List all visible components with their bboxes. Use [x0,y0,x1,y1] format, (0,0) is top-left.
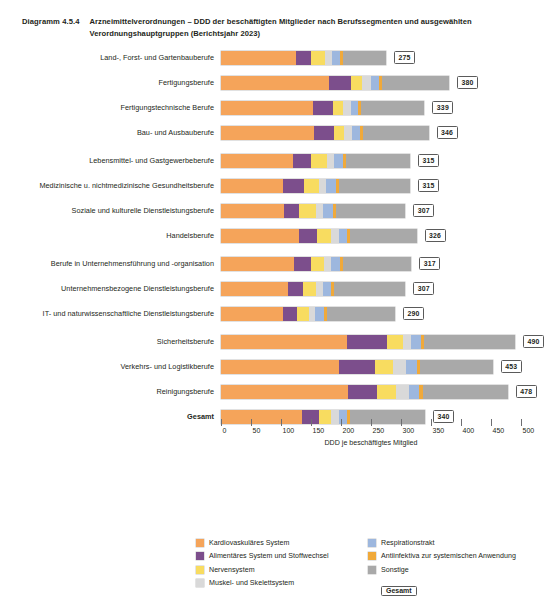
bar-segment[interactable] [303,282,316,296]
bar-segment[interactable] [327,307,395,321]
bar-segment[interactable] [371,76,379,90]
stacked-bar[interactable] [221,385,508,399]
bar-segment[interactable] [221,179,283,193]
bar-segment[interactable] [299,204,316,218]
bar-segment[interactable] [311,257,324,271]
legend-item[interactable]: Kardiovaskuläres System [196,539,344,547]
bar-segment[interactable] [288,282,303,296]
bar-segment[interactable] [351,76,362,90]
bar-segment[interactable] [316,204,323,218]
bar-segment[interactable] [352,126,359,140]
bar-segment[interactable] [221,51,296,65]
bar-segment[interactable] [363,126,429,140]
stacked-bar[interactable] [221,51,386,65]
bar-segment[interactable] [319,179,326,193]
stacked-bar[interactable] [221,335,515,349]
bar-segment[interactable] [221,257,294,271]
bar-segment[interactable] [361,101,424,115]
bar-segment[interactable] [284,204,299,218]
bar-segment[interactable] [221,335,347,349]
bar-segment[interactable] [304,179,320,193]
stacked-bar[interactable] [221,204,405,218]
bar-segment[interactable] [297,307,310,321]
bar-segment[interactable] [387,335,403,349]
bar-segment[interactable] [283,179,304,193]
stacked-bar[interactable] [221,360,493,374]
bar-segment[interactable] [339,229,347,243]
bar-segment[interactable] [333,101,343,115]
legend-item[interactable]: Muskel- und Skelettsystem [196,579,344,587]
bar-segment[interactable] [221,76,329,90]
bar-segment[interactable] [221,229,299,243]
stacked-bar[interactable] [221,126,429,140]
bar-segment[interactable] [296,51,311,65]
stacked-bar[interactable] [221,179,410,193]
bar-segment[interactable] [314,126,334,140]
stacked-bar[interactable] [221,307,395,321]
bar-segment[interactable] [221,101,313,115]
bar-segment[interactable] [324,257,331,271]
bar-segment[interactable] [325,51,332,65]
bar-segment[interactable] [221,126,314,140]
bar-segment[interactable] [334,154,342,168]
bar-segment[interactable] [221,307,283,321]
stacked-bar[interactable] [221,101,424,115]
bar-segment[interactable] [346,154,410,168]
bar-segment[interactable] [311,51,325,65]
bar-segment[interactable] [323,204,333,218]
bar-segment[interactable] [420,360,493,374]
bar-segment[interactable] [343,257,411,271]
bar-segment[interactable] [336,204,405,218]
legend-item[interactable]: Antiinfektiva zur systemischen Anwendung [368,552,516,560]
bar-segment[interactable] [362,76,371,90]
bar-segment[interactable] [351,101,358,115]
bar-segment[interactable] [375,360,393,374]
bar-segment[interactable] [334,282,405,296]
bar-segment[interactable] [348,385,377,399]
bar-segment[interactable] [339,179,410,193]
bar-segment[interactable] [343,51,386,65]
stacked-bar[interactable] [221,229,417,243]
bar-segment[interactable] [424,335,515,349]
bar-segment[interactable] [315,307,323,321]
bar-segment[interactable] [347,335,387,349]
bar-segment[interactable] [293,154,311,168]
stacked-bar[interactable] [221,154,410,168]
bar-segment[interactable] [393,360,406,374]
bar-segment[interactable] [423,385,508,399]
bar-segment[interactable] [334,126,344,140]
bar-segment[interactable] [403,335,411,349]
legend-item[interactable]: Nervensystem [196,566,344,574]
bar-segment[interactable] [406,360,417,374]
bar-segment[interactable] [299,229,317,243]
bar-segment[interactable] [323,282,331,296]
bar-segment[interactable] [221,204,284,218]
bar-segment[interactable] [331,257,339,271]
bar-segment[interactable] [221,282,288,296]
stacked-bar[interactable] [221,282,405,296]
bar-segment[interactable] [329,76,351,90]
bar-segment[interactable] [316,282,323,296]
bar-segment[interactable] [294,257,311,271]
bar-segment[interactable] [221,360,339,374]
stacked-bar[interactable] [221,76,449,90]
bar-segment[interactable] [344,126,352,140]
legend-item[interactable]: Respirationstrakt [368,539,516,547]
bar-segment[interactable] [326,179,336,193]
legend-item[interactable]: Sonstige [368,566,516,574]
bar-segment[interactable] [317,229,331,243]
bar-segment[interactable] [331,229,338,243]
bar-segment[interactable] [311,154,327,168]
bar-segment[interactable] [221,385,348,399]
bar-segment[interactable] [327,154,335,168]
bar-segment[interactable] [350,229,417,243]
bar-segment[interactable] [396,385,409,399]
bar-segment[interactable] [382,76,449,90]
bar-segment[interactable] [221,154,293,168]
stacked-bar[interactable] [221,257,411,271]
bar-segment[interactable] [411,335,421,349]
bar-segment[interactable] [332,51,340,65]
legend-item[interactable]: Alimentäres System und Stoffwechsel [196,552,344,560]
bar-segment[interactable] [409,385,419,399]
bar-segment[interactable] [313,101,332,115]
